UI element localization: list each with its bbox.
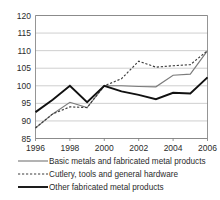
x-axis-tick-labels: 199619982000200220042006 <box>26 139 217 153</box>
chart-legend: Basic metals and fabricated metal produc… <box>18 157 206 192</box>
data-series-layer <box>36 51 208 128</box>
y-tick-label: 95 <box>22 98 32 108</box>
line-chart: 859095100105110115120 199619982000200220… <box>0 0 220 200</box>
series-line-0 <box>36 51 208 128</box>
y-tick-label: 110 <box>17 46 31 56</box>
legend-label-2: Other fabricated metal products <box>49 183 164 192</box>
y-tick-label: 100 <box>17 81 31 91</box>
x-tick-label: 1996 <box>26 143 45 153</box>
y-axis-tick-labels: 859095100105110115120 <box>17 11 31 144</box>
x-tick-label: 2006 <box>198 143 217 153</box>
legend-label-1: Cutlery, tools and general hardware <box>49 170 179 179</box>
series-line-2 <box>36 77 208 112</box>
x-tick-label: 2004 <box>164 143 183 153</box>
x-tick-label: 2000 <box>95 143 114 153</box>
legend-label-0: Basic metals and fabricated metal produc… <box>49 157 206 166</box>
gridlines <box>36 16 208 139</box>
series-line-1 <box>36 51 208 128</box>
y-tick-label: 105 <box>17 63 31 73</box>
y-tick-label: 115 <box>17 28 31 38</box>
y-tick-label: 120 <box>17 11 31 21</box>
x-tick-label: 1998 <box>60 143 79 153</box>
y-tick-label: 90 <box>22 116 32 126</box>
axis-lines <box>36 16 208 139</box>
x-tick-label: 2002 <box>129 143 148 153</box>
chart-container: 859095100105110115120 199619982000200220… <box>0 0 220 200</box>
